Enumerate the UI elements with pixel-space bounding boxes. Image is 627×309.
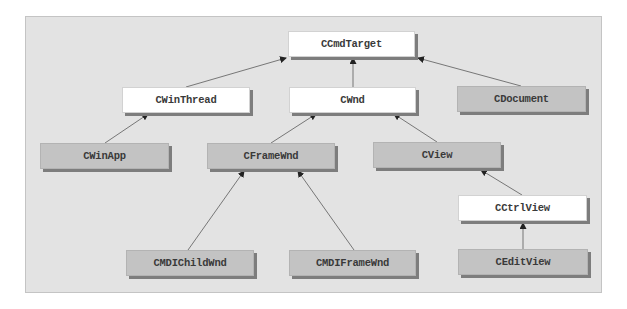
class-node-label: CView [422, 149, 453, 161]
edge-cwinapp-to-cwinthread [105, 114, 148, 143]
class-node-label: CDocument [494, 93, 549, 105]
edge-cframewnd-to-cwnd [271, 114, 316, 143]
class-node-label: CFrameWnd [244, 150, 299, 162]
class-node-label: CCtrlView [495, 202, 550, 214]
class-node-label: CMDIFrameWnd [316, 257, 389, 269]
edge-cview-to-cwnd [394, 114, 437, 142]
class-node-ccmdtarget[interactable]: CCmdTarget [288, 31, 415, 57]
edge-cctrlview-to-cview [481, 170, 522, 195]
class-node-cdocument[interactable]: CDocument [457, 86, 586, 112]
class-node-cwinapp[interactable]: CWinApp [40, 143, 169, 169]
class-node-label: CEditView [496, 256, 551, 268]
class-node-cframewnd[interactable]: CFrameWnd [207, 143, 335, 169]
class-node-label: CMDIChildWnd [153, 257, 226, 269]
class-node-cwnd[interactable]: CWnd [289, 87, 416, 113]
edge-cmdichildwnd-to-cframewnd [188, 171, 244, 250]
class-node-ceditview[interactable]: CEditView [458, 249, 588, 275]
class-node-cview[interactable]: CView [373, 142, 501, 168]
edge-cwinthread-to-ccmdtarget [186, 58, 286, 87]
class-node-label: CWinApp [83, 150, 126, 162]
edge-cmdiframewnd-to-cframewnd [298, 171, 354, 250]
edge-cdocument-to-ccmdtarget [418, 58, 521, 86]
class-node-cmdichildwnd[interactable]: CMDIChildWnd [126, 250, 254, 276]
class-node-label: CWinThread [155, 94, 216, 106]
class-node-label: CWnd [340, 94, 364, 106]
class-node-cctrlview[interactable]: CCtrlView [458, 195, 587, 221]
class-node-cwinthread[interactable]: CWinThread [122, 87, 250, 113]
class-node-label: CCmdTarget [321, 38, 382, 50]
class-node-cmdiframewnd[interactable]: CMDIFrameWnd [289, 250, 416, 276]
